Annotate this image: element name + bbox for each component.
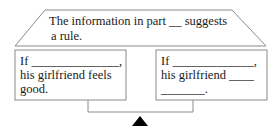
- left-box-line1: If ______________,: [20, 54, 122, 68]
- right-box-line3: _______.: [161, 82, 208, 96]
- right-box-line2: his girlfriend ____: [161, 68, 254, 82]
- right-box-line1: If _____________,: [161, 54, 257, 68]
- fulcrum-triangle-icon: [132, 116, 148, 126]
- header-text-line1: The information in part __ suggests: [49, 14, 227, 28]
- header-text-line2: a rule.: [51, 29, 82, 43]
- left-box-line2: his girlfriend feels: [20, 68, 112, 82]
- left-box-line3: good.: [20, 82, 48, 96]
- balance-beam-connector: [88, 100, 193, 112]
